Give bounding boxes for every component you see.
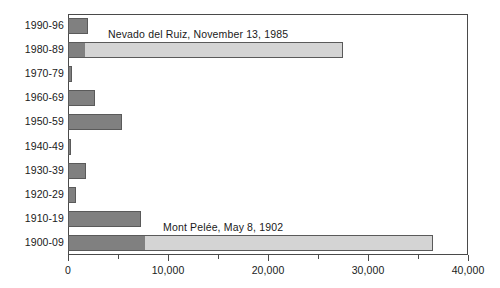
plot-area: Nevado del Ruiz, November 13, 1985Mont P… <box>68 14 468 255</box>
x-axis-tick-minor <box>218 255 219 259</box>
y-axis-tick-label: 1960-69 <box>0 91 64 103</box>
x-axis-tick-major <box>268 255 269 261</box>
bar-segment-single-event <box>85 42 343 58</box>
bar-segment-base <box>68 187 76 203</box>
bar-1970-79 <box>68 66 72 82</box>
x-axis-tick-major <box>68 255 69 261</box>
bar-segment-base <box>68 42 85 58</box>
x-axis-tick-major <box>368 255 369 261</box>
x-axis-tick-label: 30,000 <box>352 264 385 276</box>
y-axis-tick-label: 1980-89 <box>0 43 64 55</box>
bar-1960-69 <box>68 90 95 106</box>
bar-segment-base <box>68 235 145 251</box>
x-axis-tick-major <box>468 255 469 261</box>
y-axis-tick-label: 1910-19 <box>0 212 64 224</box>
bar-segment-base <box>68 90 95 106</box>
chart-screenshot: 1990-961980-891970-791960-691950-591940-… <box>0 0 500 288</box>
bar-segment-base <box>68 211 141 227</box>
y-axis-tick-label: 1950-59 <box>0 115 64 127</box>
x-axis-tick-minor <box>118 255 119 259</box>
bar-1990-96 <box>68 18 88 34</box>
bar-1950-59 <box>68 114 122 130</box>
bar-segment-base <box>68 18 88 34</box>
bar-1910-19 <box>68 211 141 227</box>
bar-1940-49 <box>68 139 71 155</box>
bar-segment-single-event <box>145 235 433 251</box>
y-axis-tick-label: 1900-09 <box>0 236 64 248</box>
y-axis-tick-label: 1970-79 <box>0 67 64 79</box>
x-axis-tick-minor <box>418 255 419 259</box>
y-axis-tick-label: 1990-96 <box>0 19 64 31</box>
x-axis-tick-label: 0 <box>65 264 71 276</box>
bar-1980-89 <box>68 42 343 58</box>
x-axis-tick-label: 40,000 <box>452 264 485 276</box>
bar-1900-09 <box>68 235 433 251</box>
y-axis-tick-label: 1940-49 <box>0 140 64 152</box>
y-axis-labels: 1990-961980-891970-791960-691950-591940-… <box>0 14 64 255</box>
annotation-label: Mont Pelée, May 8, 1902 <box>163 221 283 233</box>
bar-segment-base <box>68 139 71 155</box>
bar-segment-base <box>68 163 86 179</box>
x-axis-tick-label: 10,000 <box>152 264 185 276</box>
bar-1920-29 <box>68 187 76 203</box>
bar-segment-base <box>68 66 72 82</box>
x-axis-tick-label: 20,000 <box>252 264 285 276</box>
bar-1930-39 <box>68 163 86 179</box>
x-axis-tick-major <box>168 255 169 261</box>
bar-segment-base <box>68 114 122 130</box>
y-axis-tick-label: 1930-39 <box>0 164 64 176</box>
x-axis-tick-minor <box>318 255 319 259</box>
y-axis-tick-label: 1920-29 <box>0 188 64 200</box>
x-axis: 010,00020,00030,00040,000 <box>68 255 468 288</box>
annotation-label: Nevado del Ruiz, November 13, 1985 <box>108 28 288 40</box>
